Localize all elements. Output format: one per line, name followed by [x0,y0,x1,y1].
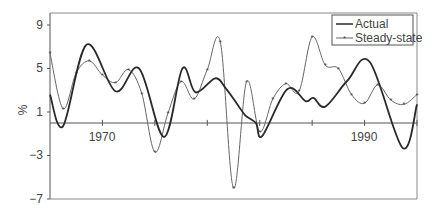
legend-steady-marker-icon: * [343,34,346,43]
steady-state-marker: * [402,100,405,109]
steady-state-marker: * [363,99,366,108]
steady-state-marker: * [232,184,235,193]
steady-state-marker: * [62,105,65,114]
steady-state-marker: * [284,80,287,89]
steady-state-marker: * [166,109,169,118]
legend-steady-label: Steady-state [355,31,423,45]
steady-state-marker: * [271,95,274,104]
y-tick-label-1: 1 [36,105,43,119]
y-axis-label: % [16,104,30,115]
steady-state-marker: * [153,148,156,157]
steady-state-marker: * [337,65,340,74]
steady-state-marker: * [114,79,117,88]
steady-state-marker: * [206,66,209,75]
steady-state-marker: * [48,49,51,58]
steady-state-marker: * [219,38,222,47]
steady-state-marker: * [88,57,91,66]
steady-state-marker: * [311,33,314,42]
steady-state-marker: * [415,91,418,100]
y-tick-label-neg3: −3 [29,148,43,162]
steady-state-marker: * [389,96,392,105]
steady-state-markers: ***************************** [48,33,418,193]
x-tick-label-1990: 1990 [351,130,378,144]
steady-state-marker: * [193,95,196,104]
legend: Actual * Steady-state [332,15,423,45]
x-tick-label-1970: 1970 [89,130,116,144]
steady-state-marker: * [324,61,327,70]
steady-state-marker: * [245,78,248,87]
y-tick-label-neg7: −7 [29,192,43,206]
line-chart: % 1970 1990 9 5 1 −3 −7 ****************… [0,0,438,213]
legend-actual-label: Actual [355,17,388,31]
y-tick-label-9: 9 [36,18,43,32]
steady-state-marker: * [350,91,353,100]
y-tick-label-5: 5 [36,61,43,75]
steady-state-marker: * [140,90,143,99]
